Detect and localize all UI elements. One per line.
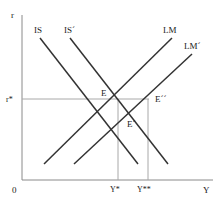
lm-curve-label: LM	[163, 25, 177, 35]
origin-label: 0	[12, 185, 17, 195]
r-star-tick-label: r*	[6, 95, 13, 104]
is-lm-diagram: IS IS´ LM LM´ E E´´ E´ r Y 0 r* Y* Y**	[0, 0, 217, 201]
axis-labels-group: r Y 0 r* Y* Y**	[6, 10, 210, 195]
equilibrium-e-label: E	[101, 88, 107, 98]
curves-group	[40, 38, 192, 164]
is-prime-curve-label: IS´	[64, 25, 75, 35]
lm-prime-curve-label: LM´	[184, 41, 201, 51]
equilibrium-e-double-prime-label: E´´	[155, 94, 167, 104]
y-axis-label: r	[11, 10, 14, 20]
y-double-star-tick-label: Y**	[137, 185, 151, 194]
equilibrium-e-prime-label: E´	[127, 119, 136, 129]
curve-labels-group: IS IS´ LM LM´	[34, 25, 201, 51]
y-star-tick-label: Y*	[110, 185, 120, 194]
lm-prime-curve	[74, 54, 192, 164]
is-curve-label: IS	[34, 25, 42, 35]
is-curve	[40, 38, 138, 164]
x-axis-label: Y	[203, 185, 210, 195]
